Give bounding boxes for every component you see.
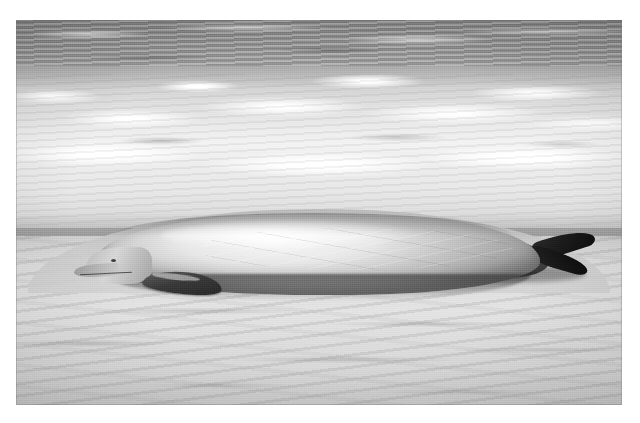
print-margin [16, 407, 622, 421]
photograph [16, 20, 622, 405]
page-root [0, 0, 640, 423]
stranded-whale [16, 20, 622, 405]
whale-rake-scars [198, 228, 513, 270]
whale-eye [111, 259, 116, 262]
